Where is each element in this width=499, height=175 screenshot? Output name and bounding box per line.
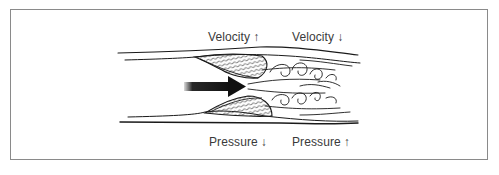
plaque-top [195, 54, 267, 78]
arrow-down-icon: ↓ [337, 30, 343, 44]
flow-arrow-icon [184, 76, 246, 97]
plaque-bottom [205, 96, 272, 116]
label-velocity-up: Velocity↑ [208, 30, 259, 44]
label-velocity-down: Velocity↓ [292, 30, 343, 44]
arrow-up-icon: ↑ [253, 30, 259, 44]
arrow-down-icon: ↓ [261, 135, 267, 149]
label-pressure-up: Pressure↑ [292, 135, 350, 149]
label-pressure-down: Pressure↓ [209, 135, 267, 149]
arrow-up-icon: ↑ [344, 135, 350, 149]
